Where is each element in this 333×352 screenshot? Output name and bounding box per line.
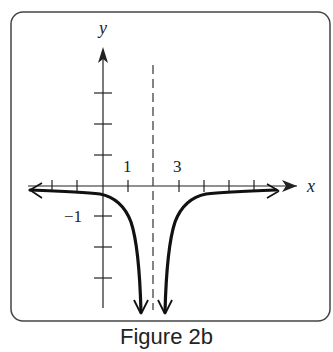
x-tick-label-3: 3 (173, 157, 182, 176)
x-axis-label: x (306, 176, 315, 196)
x-tick-label-1: 1 (123, 157, 132, 176)
figure-frame (11, 12, 330, 321)
curve-left-branch (30, 183, 148, 314)
y-axis (94, 47, 112, 308)
curve-right-branch (158, 184, 279, 314)
figure-caption: Figure 2b (0, 322, 333, 352)
y-axis-label: y (97, 18, 107, 38)
y-tick-label-neg1: −1 (64, 207, 82, 226)
